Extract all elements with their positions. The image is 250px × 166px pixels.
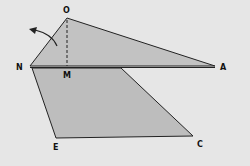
- label-m: M: [63, 71, 71, 80]
- arrow-head-icon: [29, 27, 37, 34]
- triangle-ona: [30, 18, 215, 66]
- label-e: E: [53, 143, 58, 152]
- label-a: A: [220, 63, 227, 72]
- label-n: N: [16, 63, 23, 72]
- label-o: O: [63, 6, 70, 15]
- geometry-diagram: O N M A E C: [0, 0, 250, 166]
- label-c: C: [197, 140, 203, 149]
- lower-quadrilateral: [32, 68, 193, 138]
